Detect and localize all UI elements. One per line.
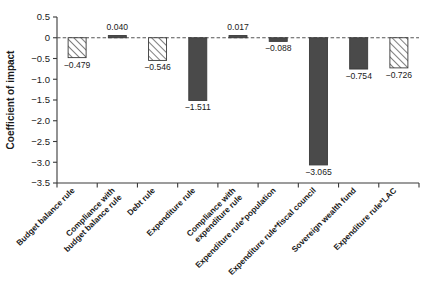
- bar-chart: Coefficient of impact 0.50−0.5−1.0−1.5−2…: [0, 0, 428, 294]
- y-tick-label: −1.0: [31, 74, 50, 85]
- bar: [309, 38, 327, 165]
- x-axis-category-label: Debt rule: [126, 186, 158, 218]
- bar: [390, 38, 408, 68]
- bar-value-label: −0.754: [345, 71, 372, 81]
- bar: [189, 38, 207, 101]
- bar-value-label: −0.546: [144, 62, 171, 72]
- y-axis-label-text: Coefficient of impact: [5, 50, 16, 150]
- x-axis-ticks: [57, 183, 419, 188]
- bar-value-label: −0.479: [64, 60, 91, 70]
- bar: [229, 36, 247, 38]
- bar: [108, 36, 126, 38]
- bar-value-label: −1.511: [185, 102, 211, 112]
- bar-series: [68, 36, 408, 165]
- bar-value-label: 0.040: [107, 22, 129, 32]
- y-tick-label: −2.5: [31, 136, 50, 147]
- x-axis-category-label: Budget balance rule: [15, 186, 77, 248]
- y-tick-label: −1.5: [31, 94, 50, 105]
- bar-value-label: −0.088: [265, 43, 292, 53]
- category-label-line: budget balance rule: [62, 193, 123, 254]
- bar: [149, 38, 167, 61]
- y-tick-label: −3.0: [31, 157, 50, 168]
- y-tick-label: 0: [45, 32, 50, 43]
- bar-value-label: 0.017: [227, 22, 249, 32]
- bar: [350, 38, 368, 69]
- y-axis-label: Coefficient of impact: [5, 50, 16, 150]
- category-label-line: Debt rule: [126, 186, 158, 218]
- chart-canvas: Coefficient of impact 0.50−0.5−1.0−1.5−2…: [0, 0, 428, 294]
- x-axis-category-labels: Budget balance ruleCompliance withbudget…: [15, 186, 399, 277]
- y-tick-label: −3.5: [31, 177, 50, 188]
- y-tick-label: 0.5: [37, 11, 50, 22]
- bar: [269, 38, 287, 42]
- y-axis-ticks: 0.50−0.5−1.0−1.5−2.0−2.5−3.0−3.5: [31, 11, 57, 188]
- y-tick-label: −0.5: [31, 53, 50, 64]
- bar: [68, 38, 86, 58]
- bar-value-label: −3.065: [305, 167, 332, 177]
- y-tick-label: −2.0: [31, 115, 50, 126]
- bar-value-label: −0.726: [386, 70, 413, 80]
- category-label-line: Budget balance rule: [15, 186, 77, 248]
